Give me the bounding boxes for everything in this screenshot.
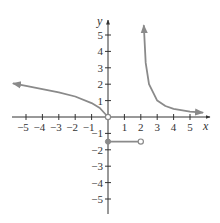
x-tick-label: −2: [66, 121, 78, 133]
y-tick-label: 2: [98, 78, 104, 90]
y-tick-label: 3: [98, 62, 104, 74]
x-tick-label: −3: [50, 121, 62, 133]
series-0-line: [13, 83, 108, 117]
y-tick-label: −3: [91, 160, 103, 172]
open-endpoint: [138, 139, 143, 144]
y-tick-label: −4: [91, 177, 103, 189]
x-tick-label: −5: [17, 121, 29, 133]
y-tick-label: 4: [98, 45, 104, 57]
function-graph: −5−4−3−2−112345 −5−4−3−2−112345 x y: [0, 0, 220, 223]
x-tick-label: 3: [154, 121, 160, 133]
open-endpoint: [105, 114, 110, 119]
closed-endpoint: [105, 139, 110, 144]
series-2-line: [144, 25, 203, 113]
y-tick-label: −2: [91, 144, 103, 156]
y-axis-label: y: [96, 14, 103, 28]
y-tick-label: 1: [98, 95, 104, 107]
y-tick-label: −1: [91, 127, 103, 139]
x-axis-label: x: [202, 119, 209, 133]
y-tick-label: 5: [98, 29, 104, 41]
x-tick-label: −4: [34, 121, 46, 133]
y-tick-label: −5: [91, 193, 103, 205]
x-tick-label: 4: [171, 121, 177, 133]
x-tick-label: 5: [187, 121, 193, 133]
x-tick-label: 2: [138, 121, 144, 133]
x-tick-label: 1: [122, 121, 128, 133]
